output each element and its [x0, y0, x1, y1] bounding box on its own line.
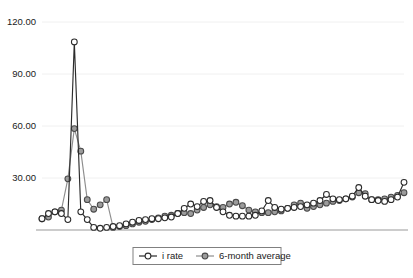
series-i-rate — [39, 39, 407, 231]
data-point — [201, 199, 207, 205]
data-point — [246, 213, 252, 219]
chart-container: 120.0090.0060.0030.00i rate6-month avera… — [0, 0, 413, 278]
data-point — [123, 221, 129, 227]
data-point — [369, 197, 375, 203]
data-point — [343, 196, 349, 202]
data-point — [110, 224, 116, 230]
data-point — [201, 205, 207, 211]
legend-item-label: 6-month average — [219, 250, 291, 261]
data-point — [278, 206, 284, 212]
data-point — [71, 39, 77, 45]
data-point — [65, 217, 71, 223]
data-point — [52, 209, 58, 215]
data-point — [388, 197, 394, 203]
data-point — [91, 225, 97, 231]
data-point — [285, 205, 291, 211]
data-point — [375, 198, 381, 204]
data-point — [265, 198, 271, 204]
legend-item-label: i rate — [162, 250, 183, 261]
y-axis-tick-label: 60.00 — [12, 120, 36, 131]
y-axis-tick-label: 120.00 — [7, 16, 36, 27]
gridlines — [42, 22, 404, 178]
data-point — [91, 206, 97, 212]
data-point — [362, 193, 368, 199]
data-point — [336, 197, 342, 203]
data-point — [298, 204, 304, 210]
data-point — [291, 205, 297, 211]
data-point — [304, 202, 310, 208]
data-point — [220, 209, 226, 215]
data-point — [246, 207, 252, 213]
data-point — [401, 190, 407, 196]
data-point — [46, 211, 52, 217]
data-point — [194, 204, 200, 210]
data-point — [239, 213, 245, 219]
data-point — [155, 216, 161, 222]
data-point — [324, 200, 330, 206]
data-point — [317, 198, 323, 204]
data-point — [227, 201, 233, 207]
line-chart: 120.0090.0060.0030.00i rate6-month avera… — [0, 0, 413, 278]
data-point — [58, 211, 64, 217]
data-point — [207, 198, 213, 204]
data-point — [233, 199, 239, 205]
data-point — [104, 225, 110, 231]
data-point — [136, 218, 142, 224]
y-axis-tick-label: 30.00 — [12, 172, 36, 183]
data-point — [84, 197, 90, 203]
data-point — [104, 197, 110, 203]
data-point — [265, 210, 271, 216]
data-point — [252, 212, 258, 218]
data-point — [311, 200, 317, 206]
data-point — [130, 219, 136, 225]
data-point — [259, 208, 265, 214]
data-point — [324, 192, 330, 198]
data-point — [188, 211, 194, 217]
data-point — [349, 193, 355, 199]
legend-swatch-marker — [202, 253, 208, 259]
data-point — [168, 214, 174, 220]
data-point — [188, 201, 194, 207]
series-line — [42, 42, 404, 228]
data-point — [227, 212, 233, 218]
y-axis-tick-label: 90.00 — [12, 68, 36, 79]
chart-legend: i rate6-month average — [133, 248, 291, 265]
data-point — [330, 196, 336, 202]
data-point — [39, 216, 45, 222]
data-point — [84, 217, 90, 223]
data-point — [181, 205, 187, 211]
y-axis-tick-labels: 120.0090.0060.0030.00 — [7, 16, 36, 183]
data-point — [175, 211, 181, 217]
data-point — [78, 209, 84, 215]
data-point — [117, 223, 123, 229]
data-point — [97, 202, 103, 208]
data-point — [382, 199, 388, 205]
data-point — [233, 213, 239, 219]
data-point — [149, 216, 155, 222]
data-point — [162, 215, 168, 221]
data-point — [356, 185, 362, 191]
data-point — [239, 203, 245, 209]
data-point — [272, 205, 278, 211]
data-point — [71, 126, 77, 132]
data-point — [395, 194, 401, 200]
data-point — [97, 225, 103, 231]
data-point — [401, 179, 407, 185]
legend-swatch-marker — [145, 253, 151, 259]
data-point — [143, 217, 149, 223]
data-point — [214, 205, 220, 211]
